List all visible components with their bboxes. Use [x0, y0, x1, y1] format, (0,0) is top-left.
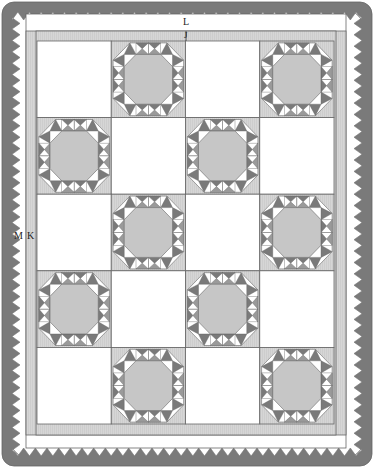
label-j: J	[184, 31, 188, 40]
label-m: M	[14, 231, 23, 241]
label-k: K	[27, 231, 34, 241]
block-grid	[37, 31, 334, 424]
label-l: L	[183, 17, 189, 27]
quilt-diagram	[0, 0, 376, 470]
